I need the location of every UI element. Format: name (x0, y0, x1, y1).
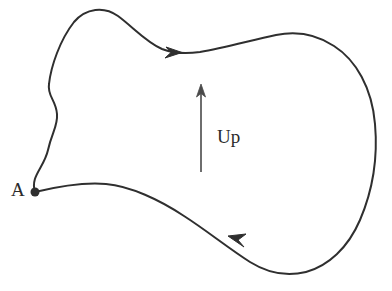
point-a-label: A (11, 180, 25, 199)
closed-loop-curve (34, 10, 376, 274)
figure-canvas: A Up (0, 0, 392, 291)
top-direction-arrowhead (165, 47, 182, 58)
loop-diagram-svg (0, 0, 392, 291)
up-arrow (197, 84, 206, 172)
bottom-direction-arrowhead (228, 234, 246, 247)
up-direction-label: Up (217, 126, 240, 148)
point-a-marker (31, 188, 40, 197)
